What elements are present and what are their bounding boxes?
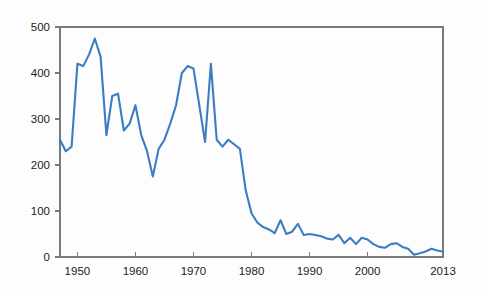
y-tick-label: 100 — [31, 205, 50, 217]
y-tick-label: 0 — [44, 251, 50, 263]
axis-group — [60, 27, 443, 257]
y-tick-label: 300 — [31, 113, 50, 125]
series-group — [60, 39, 443, 255]
data-series-line — [60, 39, 443, 255]
y-tick-label: 500 — [31, 21, 50, 33]
y-tick-label: 200 — [31, 159, 50, 171]
x-tick-label: 2000 — [355, 265, 381, 277]
line-chart: 0100200300400500 19501960197019801990200… — [0, 0, 482, 295]
x-tick-label: 1960 — [123, 265, 149, 277]
chart-figure: 0100200300400500 19501960197019801990200… — [0, 0, 482, 295]
y-tick-label: 400 — [31, 67, 50, 79]
x-tick-label: 1970 — [181, 265, 207, 277]
x-tick-label: 1990 — [297, 265, 323, 277]
axis-frame — [60, 27, 443, 257]
y-axis-ticks: 0100200300400500 — [31, 21, 60, 263]
x-axis-ticks: 1950196019701980199020002013 — [65, 252, 456, 277]
x-tick-label: 2013 — [430, 265, 456, 277]
x-tick-label: 1980 — [239, 265, 265, 277]
x-tick-label: 1950 — [65, 265, 91, 277]
